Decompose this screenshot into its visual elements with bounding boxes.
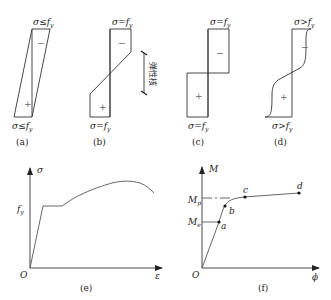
panel-e-caption: (e) [80, 283, 92, 293]
panel-a-caption: (a) [16, 137, 28, 147]
point-d [297, 191, 300, 194]
elastic-core-dimension: 弹性核 [141, 51, 158, 95]
moment-axis-label: M [208, 164, 219, 174]
yield-stress-label: fy [16, 204, 24, 216]
point-c [243, 195, 246, 198]
panel-d-top-label: σ>fy [294, 17, 315, 29]
epsilon-axis-label: ε [155, 271, 160, 281]
panel-d: σ>fy − + σ>fy (d) [265, 17, 315, 147]
panel-d-caption: (d) [274, 137, 287, 147]
me-label: Me [187, 217, 201, 228]
moment-curvature-chart: M ϕ O Mp Me a b c d (f) [187, 164, 319, 293]
panel-c: σ=fy − + σ=fy (c) [187, 17, 231, 147]
elastic-core-label: 弹性核 [148, 62, 158, 86]
stress-strain-chart: σ ε O fy (e) [16, 165, 162, 293]
panel-c-sign-compression: − [216, 48, 224, 58]
figure-canvas: σ≤fy − + σ≤fy (a) σ=fy − + σ=fy (b) 弹性核 … [0, 0, 331, 300]
sigma-axis-label: σ [37, 165, 44, 175]
stress-strain-curve [30, 181, 154, 268]
panel-a-sign-tension: + [24, 99, 32, 109]
origin-label-e: O [20, 270, 28, 280]
panel-f-caption: (f) [258, 283, 268, 293]
point-a-label: a [221, 221, 226, 231]
panel-b-top-label: σ=fy [112, 17, 133, 29]
panel-c-caption: (c) [192, 137, 204, 147]
origin-label-f: O [192, 270, 200, 280]
moment-curvature-curve [202, 193, 299, 268]
panel-b-sign-compression: − [118, 38, 126, 48]
panel-a-sign-compression: − [37, 38, 45, 48]
mp-label: Mp [187, 195, 201, 207]
point-c-label: c [243, 185, 248, 195]
point-b [223, 204, 226, 207]
panel-c-bottom-label: σ=fy [188, 121, 209, 133]
curvature-axis-label: ϕ [312, 272, 318, 282]
point-b-label: b [229, 206, 235, 216]
panel-b: σ=fy − + σ=fy (b) 弹性核 [90, 17, 158, 147]
panel-d-bottom-label: σ>fy [272, 121, 293, 133]
panel-c-sign-tension: + [195, 91, 203, 101]
panel-a: σ≤fy − + σ≤fy (a) [12, 17, 54, 147]
panel-b-bottom-label: σ=fy [90, 121, 111, 133]
panel-d-sign-compression: − [301, 42, 309, 52]
panel-a-top-label: σ≤fy [33, 17, 54, 29]
panel-a-bottom-label: σ≤fy [12, 121, 33, 133]
panel-b-sign-tension: + [99, 102, 107, 112]
point-d-label: d [297, 181, 303, 191]
panel-d-sign-tension: + [280, 92, 288, 102]
panel-c-top-label: σ=fy [210, 17, 231, 29]
panel-b-caption: (b) [93, 137, 106, 147]
